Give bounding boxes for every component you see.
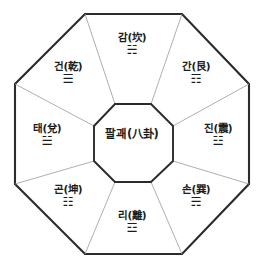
sector-label-top-left: 건(乾) ☰ (54, 61, 83, 86)
inner-octagon (94, 104, 173, 182)
trigram-xun-icon: ☴ (182, 196, 211, 209)
sector-label-top: 감(坎) ☵ (118, 32, 147, 57)
trigram-kan-icon: ☵ (118, 44, 147, 57)
bagua-diagram: 감(坎) ☵ 건(乾) ☰ 간(艮) ☶ 태(兌) ☱ 진(震) ☳ 곤(坤) … (0, 0, 264, 277)
sector-label-bottom: 리(離) ☲ (118, 210, 147, 235)
trigram-zhen-icon: ☳ (204, 135, 233, 148)
trigram-li-icon: ☲ (118, 222, 147, 235)
sector-label-right: 진(震) ☳ (204, 123, 233, 148)
trigram-gen-icon: ☶ (182, 73, 211, 86)
sector-label-bottom-left: 곤(坤) ☷ (54, 184, 83, 209)
trigram-qian-icon: ☰ (54, 73, 83, 86)
sector-label-top-right: 간(艮) ☶ (182, 61, 211, 86)
sector-label-left: 태(兌) ☱ (33, 123, 62, 148)
trigram-kun-icon: ☷ (54, 196, 83, 209)
sector-label-bottom-right: 손(巽) ☴ (182, 184, 211, 209)
center-title: 팔괘(八卦) (105, 125, 158, 141)
trigram-dui-icon: ☱ (33, 135, 62, 148)
